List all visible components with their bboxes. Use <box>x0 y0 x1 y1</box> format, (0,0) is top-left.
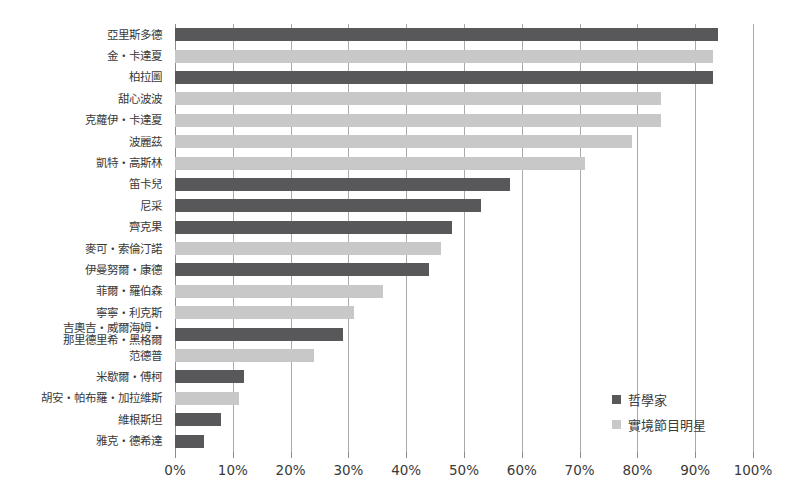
bar-philosopher[interactable] <box>175 328 343 341</box>
x-tick-label: 70% <box>565 462 595 478</box>
x-tick-90 <box>695 452 696 458</box>
bar-philosopher[interactable] <box>175 221 452 234</box>
bar-row[interactable] <box>175 281 753 302</box>
bar-reality[interactable] <box>175 92 661 105</box>
chart-title <box>0 0 787 3</box>
bar-philosopher[interactable] <box>175 413 221 426</box>
bar-chart: 亞里斯多德金・卡達夏柏拉圖甜心波波克蘿伊・卡達夏波麗茲凱特・高斯林笛卡兒尼采齊克… <box>0 0 787 498</box>
bar-philosopher[interactable] <box>175 71 713 84</box>
legend-swatch-icon <box>612 420 621 429</box>
category-label: 笛卡兒 <box>0 174 168 195</box>
x-tick-50 <box>464 452 465 458</box>
x-axis-ticks <box>175 452 753 460</box>
bar-row[interactable] <box>175 24 753 45</box>
gridline-100 <box>753 24 754 452</box>
bar-reality[interactable] <box>175 50 713 63</box>
bar-philosopher[interactable] <box>175 435 204 448</box>
category-label: 菲爾・羅伯森 <box>0 281 168 302</box>
x-tick-label: 50% <box>449 462 479 478</box>
legend-item-reality[interactable]: 實境節目明星 <box>612 415 706 434</box>
bar-philosopher[interactable] <box>175 199 481 212</box>
bar-philosopher[interactable] <box>175 263 429 276</box>
x-tick-80 <box>637 452 638 458</box>
bar-row[interactable] <box>175 366 753 387</box>
bar-row[interactable] <box>175 67 753 88</box>
x-tick-20 <box>291 452 292 458</box>
x-axis-tick-labels: 0%10%20%30%40%50%60%70%80%90%100% <box>175 462 753 482</box>
legend-item-philosopher[interactable]: 哲學家 <box>612 390 706 409</box>
bar-row[interactable] <box>175 323 753 344</box>
x-tick-30 <box>348 452 349 458</box>
bar-row[interactable] <box>175 259 753 280</box>
bar-series-container <box>175 24 753 452</box>
bar-row[interactable] <box>175 174 753 195</box>
bar-reality[interactable] <box>175 157 585 170</box>
bar-row[interactable] <box>175 131 753 152</box>
category-label: 柏拉圖 <box>0 67 168 88</box>
bar-row[interactable] <box>175 217 753 238</box>
bar-row[interactable] <box>175 152 753 173</box>
category-label: 尼采 <box>0 195 168 216</box>
legend-label: 實境節目明星 <box>628 415 706 434</box>
category-label: 克蘿伊・卡達夏 <box>0 110 168 131</box>
x-tick-0 <box>175 452 176 458</box>
category-label: 亞里斯多德 <box>0 24 168 45</box>
bar-reality[interactable] <box>175 349 314 362</box>
bar-philosopher[interactable] <box>175 370 244 383</box>
bar-philosopher[interactable] <box>175 28 718 41</box>
category-label: 齊克果 <box>0 217 168 238</box>
bar-reality[interactable] <box>175 306 354 319</box>
plot-area <box>175 24 753 452</box>
bar-row[interactable] <box>175 302 753 323</box>
x-tick-label: 40% <box>391 462 421 478</box>
category-label: 凱特・高斯林 <box>0 152 168 173</box>
category-label: 伊曼努爾・康德 <box>0 259 168 280</box>
x-tick-label: 90% <box>680 462 710 478</box>
bar-reality[interactable] <box>175 135 632 148</box>
category-label: 甜心波波 <box>0 88 168 109</box>
category-label: 吉奧吉・威爾海姆・ 那里德里希・黑格爾 <box>0 323 168 344</box>
x-tick-100 <box>753 452 754 458</box>
category-label: 雅克・德希達 <box>0 430 168 451</box>
legend-label: 哲學家 <box>628 390 667 409</box>
category-label: 米歇爾・傅柯 <box>0 366 168 387</box>
bar-row[interactable] <box>175 345 753 366</box>
x-tick-label: 10% <box>218 462 248 478</box>
bar-row[interactable] <box>175 88 753 109</box>
category-axis-labels: 亞里斯多德金・卡達夏柏拉圖甜心波波克蘿伊・卡達夏波麗茲凱特・高斯林笛卡兒尼采齊克… <box>0 24 168 452</box>
bar-reality[interactable] <box>175 392 239 405</box>
bar-row[interactable] <box>175 110 753 131</box>
x-tick-label: 60% <box>507 462 537 478</box>
category-label: 范德普 <box>0 345 168 366</box>
bar-row[interactable] <box>175 45 753 66</box>
category-label: 波麗茲 <box>0 131 168 152</box>
x-tick-10 <box>233 452 234 458</box>
category-label: 金・卡達夏 <box>0 45 168 66</box>
bar-reality[interactable] <box>175 114 661 127</box>
x-tick-label: 100% <box>734 462 773 478</box>
legend-swatch-icon <box>612 395 621 404</box>
bar-reality[interactable] <box>175 285 383 298</box>
bar-row[interactable] <box>175 238 753 259</box>
bar-philosopher[interactable] <box>175 178 510 191</box>
category-label: 麥可・索倫汀諾 <box>0 238 168 259</box>
x-tick-70 <box>580 452 581 458</box>
x-tick-label: 30% <box>333 462 363 478</box>
x-tick-40 <box>406 452 407 458</box>
category-label: 維根斯坦 <box>0 409 168 430</box>
x-tick-label: 20% <box>276 462 306 478</box>
x-tick-label: 80% <box>622 462 652 478</box>
x-tick-label: 0% <box>164 462 185 478</box>
bar-reality[interactable] <box>175 242 441 255</box>
x-tick-60 <box>522 452 523 458</box>
category-label: 胡安・帕布羅・加拉維斯 <box>0 388 168 409</box>
legend: 哲學家實境節目明星 <box>612 390 706 434</box>
bar-row[interactable] <box>175 195 753 216</box>
